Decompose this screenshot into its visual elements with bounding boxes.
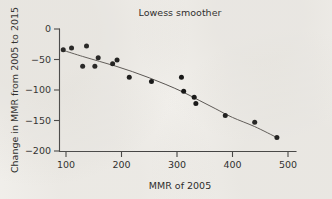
data-point bbox=[110, 61, 115, 66]
data-point bbox=[115, 58, 120, 63]
data-point bbox=[80, 64, 85, 69]
chart-title: Lowess smoother bbox=[139, 7, 222, 18]
data-point bbox=[92, 64, 97, 69]
y-tick-label: −100 bbox=[25, 84, 51, 95]
x-axis: 100200300400500 bbox=[57, 152, 297, 171]
y-axis-title: Change in MMR from 2005 to 2015 bbox=[9, 7, 20, 173]
y-tick-label: −150 bbox=[25, 115, 51, 126]
y-tick-label: −50 bbox=[31, 54, 51, 65]
data-point bbox=[61, 47, 66, 52]
x-tick-label: 100 bbox=[57, 159, 75, 170]
scatter-points bbox=[61, 44, 280, 141]
data-point bbox=[96, 55, 101, 60]
data-point bbox=[193, 101, 198, 106]
chart-canvas: Lowess smoother Change in MMR from 2005 … bbox=[0, 0, 332, 199]
data-point bbox=[223, 113, 228, 118]
data-point bbox=[149, 79, 154, 84]
x-axis-title: MMR of 2005 bbox=[149, 180, 211, 191]
y-tick-label: 0 bbox=[45, 23, 51, 34]
lowess-scatter-figure: Lowess smoother Change in MMR from 2005 … bbox=[0, 0, 332, 199]
lowess-smoother-line bbox=[63, 50, 277, 137]
y-tick-label: −200 bbox=[25, 145, 51, 156]
data-point bbox=[274, 135, 279, 140]
data-point bbox=[181, 89, 186, 94]
data-point bbox=[84, 44, 89, 49]
data-point bbox=[192, 95, 197, 100]
x-tick-group: 100200300400500 bbox=[57, 152, 297, 171]
data-point bbox=[69, 45, 74, 50]
x-tick-label: 500 bbox=[279, 159, 297, 170]
x-tick-label: 200 bbox=[112, 159, 130, 170]
data-point bbox=[127, 75, 132, 80]
data-point bbox=[252, 120, 257, 125]
x-tick-label: 300 bbox=[168, 159, 186, 170]
y-axis: 0−50−100−150−200 bbox=[25, 23, 60, 156]
y-tick-group: 0−50−100−150−200 bbox=[25, 23, 60, 156]
x-tick-label: 400 bbox=[223, 159, 241, 170]
data-point bbox=[179, 75, 184, 80]
